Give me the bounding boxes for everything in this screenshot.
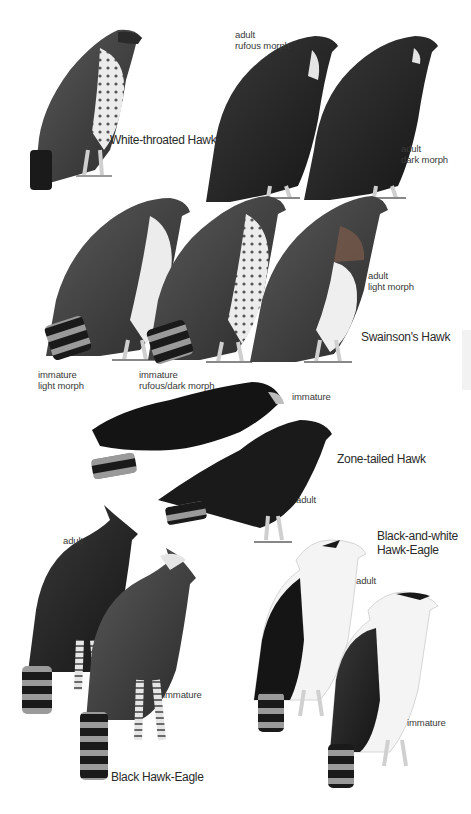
figure-label-immature: immature <box>407 717 446 728</box>
figure-label-immature: immature <box>139 369 178 380</box>
species-name-black-and-white-hawk-eagle-line2: Hawk-Eagle <box>377 543 439 557</box>
figure-label-immature: immature <box>292 391 331 402</box>
figure-label-immature: immature <box>163 689 202 700</box>
figure-label-rufous-dark-morph: rufous/dark morph <box>139 380 214 391</box>
figure-label-adult: adult <box>356 575 376 586</box>
figure-label-adult: adult <box>296 494 316 505</box>
page-edge-shadow <box>462 330 471 390</box>
figure-label-adult: adult <box>235 29 255 40</box>
species-name-black-hawk-eagle: Black Hawk-Eagle <box>111 770 204 784</box>
species-name-white-throated-hawk: White-throated Hawk <box>110 133 216 147</box>
figure-label-rufous-morph: rufous morph <box>235 40 290 51</box>
figure-label-adult: adult <box>401 143 421 154</box>
field-guide-plate: White-throated Hawk adult rufous morph a… <box>0 0 471 814</box>
figure-label-light-morph: light morph <box>38 380 84 391</box>
figure-label-light-morph: light morph <box>368 281 414 292</box>
figure-label-dark-morph: dark morph <box>401 154 448 165</box>
figure-label-immature: immature <box>38 369 77 380</box>
white-throated-hawk-figure <box>30 30 142 190</box>
figure-label-adult: adult <box>368 270 388 281</box>
species-name-black-and-white-hawk-eagle-line1: Black-and-white <box>377 529 458 543</box>
species-name-swainsons-hawk: Swainson's Hawk <box>361 330 450 344</box>
species-name-zone-tailed-hawk: Zone-tailed Hawk <box>337 452 426 466</box>
bird-illustrations <box>0 0 471 814</box>
figure-label-adult: adult <box>63 535 83 546</box>
